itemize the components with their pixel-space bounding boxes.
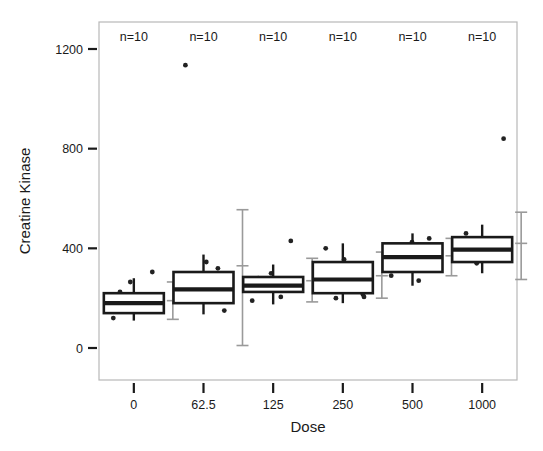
y-tick-label: 400 <box>62 242 83 256</box>
plot-border <box>99 22 517 380</box>
x-axis: 062.51252505001000Dose <box>130 383 496 435</box>
data-point <box>288 239 293 244</box>
box-group: n=10 <box>243 30 318 304</box>
sample-size-annotation: n=10 <box>259 30 287 44</box>
y-tick-label: 0 <box>76 342 83 356</box>
x-tick-label: 500 <box>402 398 423 412</box>
y-axis: 04008001200Creatine Kinase <box>16 43 97 356</box>
sample-size-annotation: n=10 <box>329 30 357 44</box>
box-group: n=10 <box>452 30 527 279</box>
x-tick-label: 62.5 <box>191 398 215 412</box>
data-point <box>278 295 283 300</box>
box-group: n=10 <box>174 30 249 346</box>
creatine-kinase-boxplot: 04008001200Creatine Kinase062.5125250500… <box>0 0 543 451</box>
box-group: n=10 <box>104 30 179 321</box>
data-point <box>501 136 506 141</box>
data-point <box>389 273 394 278</box>
sample-size-annotation: n=10 <box>398 30 426 44</box>
x-tick-label: 250 <box>332 398 353 412</box>
plot-frame <box>99 22 517 380</box>
data-point <box>416 278 421 283</box>
data-point <box>222 308 227 313</box>
data-point <box>323 246 328 251</box>
data-point <box>183 63 188 68</box>
box-group: n=10 <box>383 30 458 286</box>
boxplot-figure: 04008001200Creatine Kinase062.5125250500… <box>0 0 543 451</box>
y-tick-label: 1200 <box>55 43 83 57</box>
data-point <box>427 236 432 241</box>
data-point <box>362 295 367 300</box>
data-point <box>150 270 155 275</box>
sample-size-annotation: n=10 <box>189 30 217 44</box>
x-axis-title: Dose <box>290 418 325 435</box>
x-tick-label: 1000 <box>468 398 496 412</box>
sample-size-annotation: n=10 <box>120 30 148 44</box>
data-point <box>128 280 133 285</box>
x-tick-label: 125 <box>263 398 284 412</box>
data-point <box>464 231 469 236</box>
data-point <box>216 266 221 271</box>
data-point <box>111 316 116 321</box>
data-point <box>250 298 255 303</box>
y-axis-title: Creatine Kinase <box>16 148 33 255</box>
data-point <box>334 296 339 301</box>
x-tick-label: 0 <box>130 398 137 412</box>
sample-size-annotation: n=10 <box>468 30 496 44</box>
y-tick-label: 800 <box>62 142 83 156</box>
box-group: n=10 <box>313 30 388 303</box>
